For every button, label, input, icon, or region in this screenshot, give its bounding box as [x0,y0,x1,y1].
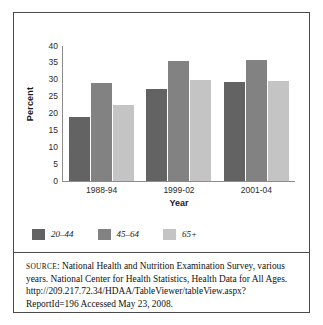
legend-label: 20–44 [51,229,74,239]
source-note: Source: National Health and Nutrition Ex… [26,260,298,310]
x-tick-label: 1999-02 [144,185,214,195]
y-tick-label: 35 [38,58,58,67]
x-axis-line [62,181,295,182]
section-divider [14,252,309,253]
x-tick-label: 2001-04 [221,185,291,195]
plot-area [63,46,295,181]
bar [168,61,189,181]
bar-chart: Percent 4035302520151050 1988-941999-022… [14,13,309,211]
y-tick-label: 0 [38,177,58,186]
x-axis-tick-labels: 1988-941999-022001-04 [63,185,295,197]
bar [91,83,112,181]
figure-frame: Percent 4035302520151050 1988-941999-022… [13,12,310,313]
y-tick-label: 25 [38,92,58,101]
x-tick-label: 1988-94 [67,185,137,195]
y-tick-label: 40 [38,42,58,51]
bar [113,105,134,181]
bar-group [218,46,295,181]
legend-swatch [163,229,176,240]
legend-label: 65+ [182,229,197,239]
source-note-label: Source [26,262,57,271]
legend-item: 65+ [163,229,197,240]
bar [246,60,267,181]
bar [69,117,90,181]
y-tick-label: 20 [38,109,58,118]
bar [190,80,211,181]
y-tick-label: 15 [38,126,58,135]
legend-item: 20–44 [32,229,74,240]
legend-label: 45–64 [117,229,140,239]
legend-item: 45–64 [98,229,140,240]
bar [268,81,289,181]
y-axis-title: Percent [25,69,35,139]
chart-legend: 20–4445–6465+ [32,226,221,242]
bar-group [140,46,217,181]
bar [224,82,245,181]
y-axis-tick-labels: 4035302520151050 [38,46,58,182]
legend-swatch [98,229,111,240]
bar-group [63,46,140,181]
legend-swatch [32,229,45,240]
y-tick-label: 30 [38,75,58,84]
bar [146,89,167,181]
y-tick-label: 10 [38,143,58,152]
y-tick-label: 5 [38,160,58,169]
source-note-text: : National Health and Nutrition Examinat… [26,261,287,309]
x-axis-title: Year [63,198,295,208]
